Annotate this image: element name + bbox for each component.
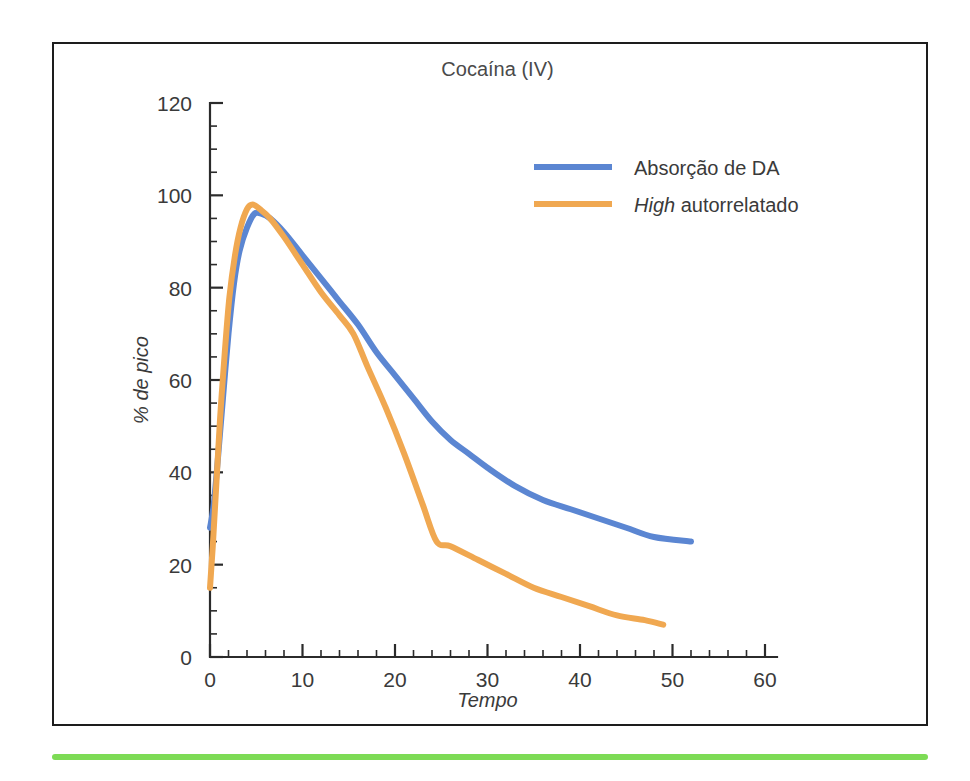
chart-canvas: 0204060801001200102030405060 Cocaína (IV… [0, 0, 970, 781]
axes-group: 0204060801001200102030405060 [157, 92, 777, 691]
legend-italic-word: High [634, 194, 675, 216]
y-tick-label: 100 [157, 184, 192, 207]
x-tick-label: 0 [204, 668, 216, 691]
x-tick-label: 30 [476, 668, 499, 691]
y-tick-label: 40 [169, 461, 192, 484]
axis-lines [210, 103, 777, 657]
y-tick-label: 80 [169, 277, 192, 300]
legend-label-high-autorrelatado[interactable]: High autorrelatado [634, 194, 799, 216]
x-tick-label: 60 [753, 668, 776, 691]
x-tick-label: 20 [383, 668, 406, 691]
series-line-high-autorrelatado [210, 205, 663, 625]
y-tick-label: 120 [157, 92, 192, 115]
labels-group: Cocaína (IV)Tempo% de pico [130, 58, 554, 711]
legend-group[interactable]: Absorção de DAHigh autorrelatado [534, 157, 799, 216]
legend-plain-word: autorrelatado [675, 194, 798, 216]
y-tick-label: 0 [180, 646, 192, 669]
chart-title: Cocaína (IV) [441, 58, 553, 80]
series-group [210, 205, 691, 625]
x-tick-label: 10 [291, 668, 314, 691]
legend-label-absorcao-de-da[interactable]: Absorção de DA [634, 157, 780, 179]
y-tick-label: 20 [169, 554, 192, 577]
y-tick-label: 60 [169, 369, 192, 392]
series-line-absorcao-de-da [210, 213, 691, 542]
x-axis-title: Tempo [457, 689, 517, 711]
x-tick-label: 40 [568, 668, 591, 691]
y-axis-title: % de pico [130, 336, 152, 424]
x-tick-label: 50 [661, 668, 684, 691]
page-root: 0204060801001200102030405060 Cocaína (IV… [0, 0, 970, 781]
